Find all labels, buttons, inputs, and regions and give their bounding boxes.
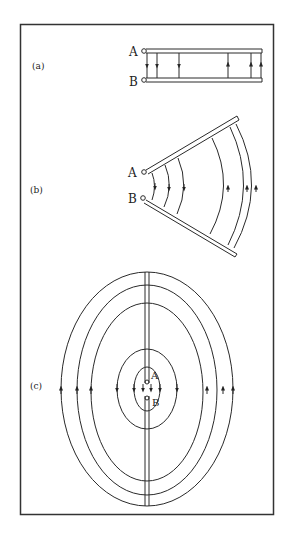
- panel-c-label: (c): [30, 381, 42, 391]
- panel-b: [141, 116, 256, 257]
- panel-c: [61, 272, 233, 506]
- figure-canvas: (a) A B (b) A B: [0, 0, 290, 535]
- panel-a-terminal-a: A: [128, 45, 138, 59]
- panel-b-label: (b): [30, 185, 43, 195]
- panel-c-terminal-a: A: [150, 370, 159, 381]
- panel-b-terminal-a: A: [127, 166, 137, 180]
- panel-a-terminal-b: B: [129, 75, 138, 89]
- panel-a-label: (a): [32, 61, 44, 71]
- panel-c-terminal-b: B: [152, 397, 159, 408]
- figure-frame: [21, 25, 274, 515]
- panel-b-terminal-b: B: [128, 192, 137, 206]
- panel-a: [142, 49, 262, 83]
